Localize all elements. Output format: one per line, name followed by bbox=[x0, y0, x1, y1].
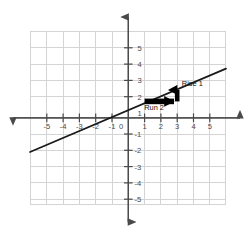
x-tick-label: 3 bbox=[175, 122, 179, 131]
x-tick-label: -5 bbox=[43, 122, 50, 131]
rise-annotation-label: Rise 1 bbox=[182, 79, 203, 88]
y-tick-label: 1 bbox=[137, 109, 141, 118]
y-tick-label: -3 bbox=[135, 163, 142, 172]
x-tick-label: 1 bbox=[142, 122, 146, 131]
y-tick-label: 3 bbox=[137, 76, 141, 85]
y-tick-label: -5 bbox=[135, 195, 142, 204]
run-annotation-label: Run 2 bbox=[144, 103, 164, 112]
coordinate-graph-figure: -5 -4 -3 -2 -1 1 2 3 4 5 0 5 4 3 2 1 -1 … bbox=[0, 0, 251, 232]
y-tick-label: 2 bbox=[137, 93, 141, 102]
origin-label: 0 bbox=[119, 122, 123, 131]
y-tick-label: -2 bbox=[135, 146, 142, 155]
x-tick-label: -4 bbox=[60, 122, 67, 131]
x-tick-label: 4 bbox=[191, 122, 195, 131]
y-tick-label: -1 bbox=[135, 130, 142, 139]
x-tick-label: 5 bbox=[208, 122, 212, 131]
x-tick-label: 2 bbox=[159, 122, 163, 131]
y-tick-label: 5 bbox=[137, 44, 141, 53]
y-tick-label: -4 bbox=[135, 179, 142, 188]
graph-canvas: -5 -4 -3 -2 -1 1 2 3 4 5 0 5 4 3 2 1 -1 … bbox=[0, 0, 251, 232]
y-tick-label: 4 bbox=[137, 60, 141, 69]
x-tick-label: -1 bbox=[109, 122, 116, 131]
